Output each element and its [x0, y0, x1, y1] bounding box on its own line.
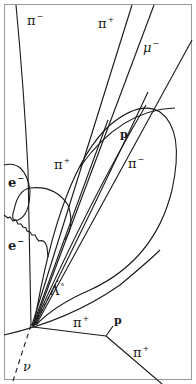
label-lambda0: Λ° [50, 283, 64, 297]
label-mu-minus: μ− [143, 40, 159, 54]
track-pi-plus-low [33, 327, 106, 336]
label-pi-minus-top: π− [27, 13, 43, 27]
label-e-minus-lower: e− [8, 237, 24, 252]
label-pi-plus-bottom: π+ [133, 345, 149, 359]
track-p-low [106, 326, 113, 336]
label-e-minus-upper: e− [8, 174, 24, 189]
label-pi-plus-mid: π+ [54, 157, 70, 171]
label-nu: ν [23, 360, 31, 373]
track-neutrino [12, 325, 31, 384]
bubble-chamber-diagram: π− π+ μ− p π+ π− e− e− Λ° π+ p π+ ν [0, 0, 196, 384]
label-pi-plus-low: π+ [73, 315, 89, 329]
track-drawing [0, 0, 196, 384]
label-pi-plus-top: π+ [98, 16, 114, 30]
primary-vertex [31, 323, 35, 327]
label-pi-minus-mid: π− [128, 156, 144, 170]
track-pi-plus-bottom [106, 336, 162, 384]
label-p-upper: p [120, 129, 128, 140]
track-pi-minus-left [16, 5, 31, 325]
label-p-low: p [114, 315, 122, 326]
